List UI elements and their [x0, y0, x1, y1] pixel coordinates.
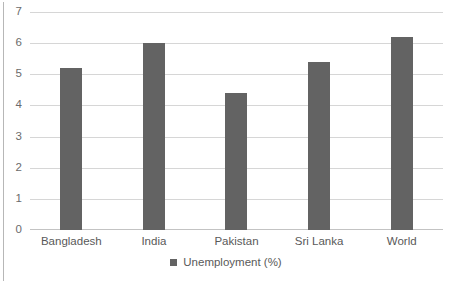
bar-group: [30, 12, 443, 230]
x-tick-label-world: World: [360, 233, 443, 249]
x-tick-label-pakistan: Pakistan: [195, 233, 278, 249]
x-tick-label-india: India: [113, 233, 196, 249]
x-tick-label-bangladesh: Bangladesh: [30, 233, 113, 249]
y-tick-label: 2: [16, 162, 22, 174]
bar-chart: 7 6 5 4 3 2 1 0: [0, 0, 452, 285]
bar-pakistan[interactable]: [225, 93, 247, 230]
bar-sri-lanka[interactable]: [308, 62, 330, 230]
x-axis-labels: Bangladesh India Pakistan Sri Lanka Worl…: [30, 233, 443, 251]
legend-square-icon: [170, 259, 177, 266]
y-tick-label: 7: [16, 6, 22, 18]
y-tick-label: 6: [16, 37, 22, 49]
y-tick-label: 3: [16, 131, 22, 143]
chart-legend: Unemployment (%): [0, 256, 452, 268]
x-tick-label-sri-lanka: Sri Lanka: [278, 233, 361, 249]
bar-slot: [30, 12, 113, 230]
bar-bangladesh[interactable]: [60, 68, 82, 230]
bar-slot: [195, 12, 278, 230]
y-axis-labels: 7 6 5 4 3 2 1 0: [0, 0, 28, 285]
bar-slot: [278, 12, 361, 230]
legend-label-unemployment: Unemployment (%): [183, 256, 281, 268]
y-tick-label: 5: [16, 68, 22, 80]
y-tick-label: 1: [16, 193, 22, 205]
y-tick-label: 4: [16, 99, 22, 111]
plot-area: [30, 12, 443, 230]
bar-slot: [360, 12, 443, 230]
y-tick-label: 0: [16, 224, 22, 236]
bar-india[interactable]: [143, 43, 165, 230]
bar-slot: [113, 12, 196, 230]
bar-world[interactable]: [391, 37, 413, 230]
